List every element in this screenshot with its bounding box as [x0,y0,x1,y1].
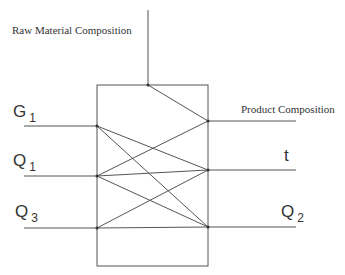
diagram-canvas [0,0,345,275]
q3-main: Q [15,202,28,221]
q1-subscript: 1 [29,160,36,174]
g1-label: G1 [13,102,36,122]
t-label: t [284,146,289,166]
q3-subscript: 3 [31,211,38,225]
q1-main: Q [13,151,26,170]
q2-label: Q2 [281,202,304,222]
q3-label: Q3 [15,202,38,222]
q1-label: Q1 [13,151,36,171]
q2-subscript: 2 [297,211,304,225]
g1-subscript: 1 [29,111,36,125]
g1-main: G [13,102,26,121]
internal-connections [97,85,208,228]
q2-main: Q [281,202,294,221]
product-composition-label: Product Composition [241,103,335,115]
raw-material-label: Raw Material Composition [12,24,132,36]
